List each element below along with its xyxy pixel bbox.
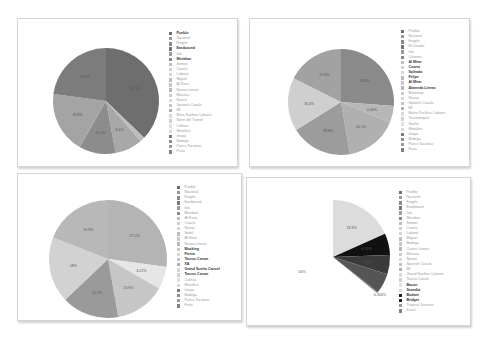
legend-swatch-icon	[399, 294, 402, 297]
slice-label: 5.67%	[358, 271, 369, 275]
legend-swatch-icon	[399, 253, 402, 256]
legend-swatch-icon	[399, 211, 402, 214]
slice-label: 0.334%	[374, 293, 387, 297]
chart-legend: PuebloNacionalFragileEastboundIslaMeridi…	[399, 190, 443, 313]
legend-swatch-icon	[399, 283, 402, 286]
legend-label: Fusal	[406, 308, 415, 313]
legend-swatch-icon	[399, 309, 402, 312]
legend-swatch-icon	[399, 247, 402, 250]
legend-swatch-icon	[399, 268, 402, 271]
chart-panel-4: 18.3%6.13%5.46%5.67%0.334%64%PuebloNacio…	[246, 177, 471, 326]
legend-swatch-icon	[399, 206, 402, 209]
legend-swatch-icon	[399, 289, 402, 292]
legend-swatch-icon	[399, 227, 402, 230]
legend-swatch-icon	[399, 196, 402, 199]
legend-item[interactable]: Fusal	[399, 308, 443, 313]
legend-swatch-icon	[399, 258, 402, 261]
legend-swatch-icon	[399, 237, 402, 240]
legend-swatch-icon	[399, 242, 402, 245]
legend-swatch-icon	[399, 304, 402, 307]
legend-swatch-icon	[399, 263, 402, 266]
legend-swatch-icon	[399, 232, 402, 235]
legend-swatch-icon	[399, 201, 402, 204]
legend-swatch-icon	[399, 299, 402, 302]
legend-swatch-icon	[399, 273, 402, 276]
slice-label: 64%	[299, 270, 307, 274]
legend-swatch-icon	[399, 278, 402, 281]
legend-swatch-icon	[399, 222, 402, 225]
slice-label: 6.13%	[361, 247, 372, 251]
legend-swatch-icon	[399, 217, 402, 220]
legend-swatch-icon	[399, 191, 402, 194]
slice-label: 18.3%	[346, 226, 357, 230]
slice-label: 5.46%	[362, 260, 373, 264]
